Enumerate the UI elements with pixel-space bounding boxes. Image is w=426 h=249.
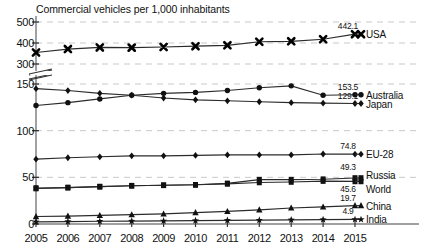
chart-canvas: Commercial vehicles per 1,000 inhabitant… xyxy=(0,0,426,249)
value-label-japan: 129.1 xyxy=(338,91,358,101)
x-tick-2005: 2005 xyxy=(25,232,48,244)
value-label-india: 4.9 xyxy=(342,206,353,216)
series-eu-28 xyxy=(33,151,363,163)
x-tick-2012: 2012 xyxy=(248,232,271,244)
value-label-russia: 49.3 xyxy=(340,162,356,172)
series-label-russia: Russia xyxy=(366,169,395,180)
y-tick-100: 100 xyxy=(0,125,34,137)
series-label-eu-28: EU-28 xyxy=(366,149,393,160)
x-tick-2013: 2013 xyxy=(280,232,303,244)
series-world xyxy=(34,178,364,191)
series-australia xyxy=(33,83,363,108)
x-tick-2009: 2009 xyxy=(152,232,175,244)
y-tick-300: 300 xyxy=(0,58,34,70)
value-label-usa: 442.1 xyxy=(338,21,358,31)
series-label-usa: USA xyxy=(366,29,386,40)
x-tick-2006: 2006 xyxy=(56,232,79,244)
x-tick-2008: 2008 xyxy=(120,232,143,244)
series-label-japan: Japan xyxy=(366,98,392,109)
series-label-world: World xyxy=(366,184,391,195)
y-tick-50: 50 xyxy=(0,171,34,183)
value-label-china: 19.7 xyxy=(340,193,356,203)
x-tick-2010: 2010 xyxy=(184,232,207,244)
series-label-india: India xyxy=(366,214,387,225)
series-china xyxy=(33,202,364,219)
series-japan xyxy=(33,85,363,107)
plot-area xyxy=(0,0,426,249)
x-tick-2011: 2011 xyxy=(216,232,238,244)
y-tick-0: 0 xyxy=(0,218,34,230)
x-tick-2014: 2014 xyxy=(312,232,335,244)
x-tick-2007: 2007 xyxy=(88,232,111,244)
x-tick-2015: 2015 xyxy=(344,232,367,244)
y-tick-400: 400 xyxy=(0,37,34,49)
y-tick-500: 500 xyxy=(0,16,34,28)
value-label-eu-28: 74.8 xyxy=(340,141,356,151)
y-tick-150: 150 xyxy=(0,78,34,90)
series-label-china: China xyxy=(366,200,391,211)
